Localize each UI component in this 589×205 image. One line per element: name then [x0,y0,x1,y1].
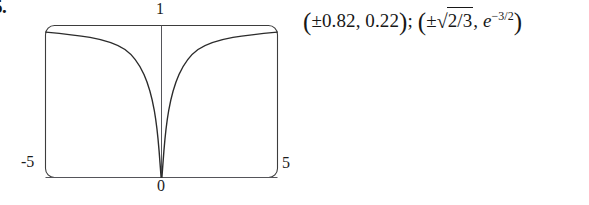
exact-pair-open-paren: ( [418,8,426,35]
plot-svg [20,0,295,205]
y-axis-max-label: 1 [156,1,164,17]
exact-plus-minus-sign: ± [426,10,437,31]
answer-separator: ; [407,10,412,31]
square-root-group: √2/3 [437,6,474,34]
exponential-base: e [483,10,492,31]
graph-figure: 1 -5 5 0 [20,0,295,205]
exponential-exponent: −3/2 [492,9,514,23]
decimal-pair-comma: , [356,10,361,31]
decimal-x-value: ±0.82 [311,10,355,31]
radicand-value: 2/3 [447,7,474,34]
exact-pair-close-paren: ) [514,8,522,35]
origin-label: 0 [157,178,165,194]
x-axis-max-label: 5 [282,155,290,171]
exercise-number: 5. [0,0,6,16]
decimal-y-value: 0.22 [365,10,399,31]
radical-sign-icon: √ [437,8,448,34]
exact-pair-comma: , [473,10,478,31]
answer-expression: (±0.82, 0.22); (±√2/3, e−3/2) [303,3,522,35]
x-axis-min-label: -5 [21,154,34,170]
